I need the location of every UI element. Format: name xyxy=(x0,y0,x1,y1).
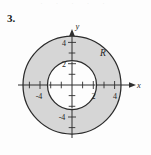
x-tick-label-4: 4 xyxy=(113,92,117,101)
coordinate-plane-plot: x y -4 2 4 4 2 -4 R xyxy=(0,0,151,155)
figure-container: · · · · · 3. xyxy=(0,0,151,155)
region-label-R: R xyxy=(99,48,106,58)
y-axis-arrowhead xyxy=(69,29,75,36)
y-tick-label-neg4: -4 xyxy=(59,113,66,122)
x-axis-label: x xyxy=(136,80,141,90)
y-tick-label-2: 2 xyxy=(62,60,66,69)
x-tick-label-neg4: -4 xyxy=(36,92,43,101)
y-axis-label: y xyxy=(75,21,80,31)
x-tick-label-2: 2 xyxy=(92,92,96,101)
x-axis-arrowhead xyxy=(129,82,136,88)
y-tick-label-4: 4 xyxy=(62,39,66,48)
